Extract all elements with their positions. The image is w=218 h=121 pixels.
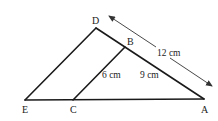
segment-DA	[96, 28, 204, 99]
measurement-BC-label: 6 cm	[102, 70, 121, 80]
segment-EA	[25, 99, 204, 100]
segment-ED	[25, 28, 96, 100]
point-label-B: B	[127, 36, 134, 47]
point-label-C: C	[70, 104, 77, 115]
point-label-A: A	[201, 104, 209, 115]
point-label-E: E	[22, 104, 28, 115]
measurement-DA-label: 12 cm	[157, 48, 181, 58]
measurement-BA-label: 9 cm	[140, 70, 159, 80]
point-label-D: D	[92, 15, 99, 26]
similar-triangles-diagram: D B E C A 12 cm 6 cm 9 cm	[0, 0, 218, 121]
measure-arrow-DA-lower	[170, 58, 212, 86]
